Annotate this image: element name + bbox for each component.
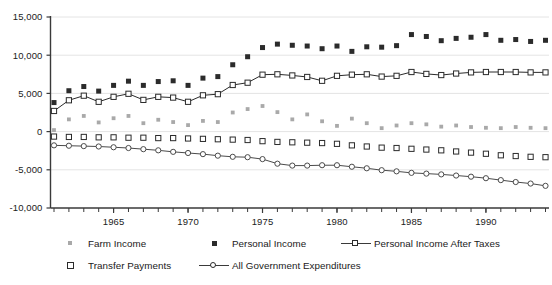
data-point — [67, 117, 71, 121]
data-point — [498, 153, 503, 158]
data-point — [66, 88, 71, 93]
data-point — [231, 111, 235, 115]
x-tick-label: 1980 — [326, 216, 348, 227]
data-point — [349, 49, 354, 54]
chart-svg: 15,00010,0005,0000-5,000-10,000196519701… — [0, 0, 552, 232]
data-point — [513, 37, 518, 42]
data-point — [156, 135, 161, 140]
y-tick-label: -10,000 — [10, 202, 43, 213]
data-point — [394, 145, 399, 150]
data-point — [245, 137, 250, 142]
data-point — [379, 45, 384, 50]
data-point — [529, 126, 533, 130]
data-point — [156, 118, 160, 122]
data-point — [364, 72, 369, 77]
data-point — [230, 62, 235, 67]
legend-label: Farm Income — [88, 238, 146, 249]
data-point — [66, 134, 71, 139]
data-point — [126, 135, 131, 140]
data-point — [424, 147, 429, 152]
x-tick-label: 1990 — [475, 216, 497, 227]
data-point — [424, 34, 429, 39]
data-point — [171, 149, 176, 154]
legend-item-all-government-expenditures: All Government Expenditures — [196, 256, 361, 274]
data-point — [528, 70, 533, 75]
data-point — [498, 38, 503, 43]
data-point — [245, 54, 250, 59]
data-point — [364, 166, 369, 171]
data-point — [260, 72, 265, 77]
data-point — [394, 169, 399, 174]
data-point — [469, 35, 474, 40]
data-point — [171, 120, 175, 124]
data-point — [200, 93, 205, 98]
data-point — [395, 124, 399, 128]
data-point — [483, 151, 488, 156]
data-point — [96, 144, 101, 149]
data-point — [156, 148, 161, 153]
data-point — [290, 140, 295, 145]
data-point — [185, 136, 190, 141]
y-tick-label: 10,000 — [13, 50, 43, 61]
data-point — [245, 80, 250, 85]
data-point — [379, 145, 384, 150]
data-point — [454, 173, 459, 178]
data-point — [141, 147, 146, 152]
data-point — [320, 119, 324, 123]
data-point — [171, 78, 176, 83]
data-point — [82, 114, 86, 118]
data-point — [230, 82, 235, 87]
data-point — [468, 174, 473, 179]
data-point — [349, 164, 354, 169]
data-point — [290, 163, 295, 168]
data-point — [439, 72, 444, 77]
data-point — [290, 73, 295, 78]
data-point — [260, 157, 265, 162]
data-point — [126, 91, 131, 96]
data-point — [215, 74, 220, 79]
data-point — [171, 95, 176, 100]
x-tick-label: 1985 — [401, 216, 423, 227]
data-point — [81, 93, 86, 98]
data-point — [200, 76, 205, 81]
legend-label: Personal Income After Taxes — [374, 238, 500, 249]
data-point — [96, 99, 101, 104]
x-tick-label: 1965 — [103, 216, 125, 227]
data-point — [261, 104, 265, 108]
data-point — [409, 170, 414, 175]
data-point — [305, 163, 310, 168]
data-point — [334, 44, 339, 49]
data-point — [51, 143, 56, 148]
data-point — [51, 134, 56, 139]
data-point — [379, 168, 384, 173]
data-point — [409, 32, 414, 37]
data-point — [454, 149, 459, 154]
data-point — [290, 117, 294, 121]
data-point — [424, 171, 429, 176]
data-point — [349, 72, 354, 77]
data-point — [185, 99, 190, 104]
legend-label: Transfer Payments — [88, 260, 171, 271]
data-point — [468, 150, 473, 155]
data-point — [81, 134, 86, 139]
data-point — [126, 145, 131, 150]
legend-item-personal-income-after-taxes: Personal Income After Taxes — [338, 234, 500, 252]
data-point — [186, 83, 191, 88]
data-point — [51, 108, 56, 113]
series-personal-income-after-taxes — [51, 69, 548, 113]
data-point — [319, 140, 324, 145]
data-point — [156, 94, 161, 99]
data-point — [52, 100, 57, 105]
legend-label: Personal Income — [232, 238, 306, 249]
data-point — [290, 43, 295, 48]
data-point — [543, 38, 548, 43]
data-point — [528, 181, 533, 186]
data-point — [424, 71, 429, 76]
data-point — [126, 79, 131, 84]
data-point — [528, 154, 533, 159]
data-point — [171, 135, 176, 140]
data-point — [498, 178, 503, 183]
data-point — [454, 124, 458, 128]
data-point — [350, 117, 354, 121]
series-farm-income — [52, 104, 547, 132]
